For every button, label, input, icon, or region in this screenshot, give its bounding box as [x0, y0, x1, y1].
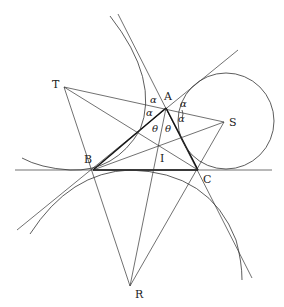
label-b: B	[84, 153, 92, 166]
angle-alpha-2: α	[146, 107, 153, 118]
line-tr	[64, 87, 130, 286]
geometry-diagram: A B C I R S T α α α α θ θ	[0, 0, 284, 307]
excircle-arc-r	[30, 170, 242, 280]
label-a: A	[163, 90, 173, 103]
angle-alpha-1: α	[150, 94, 157, 105]
label-s: S	[229, 116, 237, 129]
label-c: C	[203, 173, 211, 186]
label-t: T	[52, 78, 60, 91]
line-sr	[130, 122, 224, 286]
diagram-canvas: A B C I R S T α α α α θ θ	[0, 0, 284, 307]
angle-alpha-3: α	[180, 98, 187, 109]
label-i: I	[160, 152, 164, 165]
angle-theta-1: θ	[152, 123, 158, 134]
angle-alpha-4: α	[178, 113, 185, 124]
angle-theta-2: θ	[165, 123, 171, 134]
label-r: R	[135, 288, 144, 301]
